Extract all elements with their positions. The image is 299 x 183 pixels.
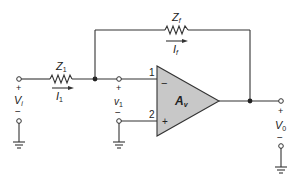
vi-ground: [13, 119, 25, 148]
zf-resistor: [165, 26, 188, 34]
v1-plus-sign: +: [116, 83, 121, 93]
vi-minus-sign: −: [15, 106, 21, 117]
v1-minus-terminal: [117, 119, 122, 124]
zf-label: Zf: [171, 11, 182, 24]
pin-1-label: 1: [149, 67, 155, 78]
input-branch: [17, 75, 117, 83]
vo-plus-terminal: [279, 99, 284, 104]
opamp-inverting-sign: −: [161, 77, 167, 89]
vo-minus-sign: −: [277, 132, 283, 143]
opamp-noninverting-sign: +: [162, 116, 168, 127]
vi-plus-terminal: [17, 77, 22, 82]
v1-minus-sign: −: [115, 107, 121, 118]
vo-plus-sign: +: [278, 106, 283, 116]
z1-label: Z1: [55, 60, 67, 73]
pin-2-label: 2: [149, 109, 155, 120]
vo-ground: [275, 148, 287, 173]
circuit-diagram: Z1 I1 + Vi − Zf If + v1 −: [0, 0, 299, 183]
z1-resistor: [50, 75, 72, 83]
if-arrow-icon: [166, 39, 188, 43]
vi-plus-sign: +: [16, 83, 21, 93]
if-label: If: [173, 43, 179, 56]
v1-plus-terminal: [117, 77, 122, 82]
vo-minus-terminal: [279, 144, 284, 149]
v1-ground: [113, 123, 125, 148]
vo-label: V0: [275, 119, 286, 132]
i1-label: I1: [56, 90, 63, 103]
output-junction-dot: [248, 99, 253, 104]
